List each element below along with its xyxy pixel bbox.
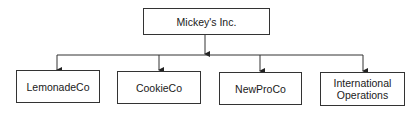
node-cookieco: CookieCo [117, 71, 201, 104]
node-lemonadeco-label: LemonadeCo [26, 81, 89, 93]
node-international-operations: International Operations [320, 72, 405, 106]
node-root: Mickey's Inc. [143, 8, 270, 35]
node-international-operations-label: International Operations [331, 77, 394, 101]
node-lemonadeco: LemonadeCo [16, 70, 100, 103]
node-newproco: NewProCo [219, 72, 302, 105]
node-root-label: Mickey's Inc. [177, 16, 237, 28]
node-newproco-label: NewProCo [235, 83, 286, 95]
node-cookieco-label: CookieCo [136, 82, 182, 94]
